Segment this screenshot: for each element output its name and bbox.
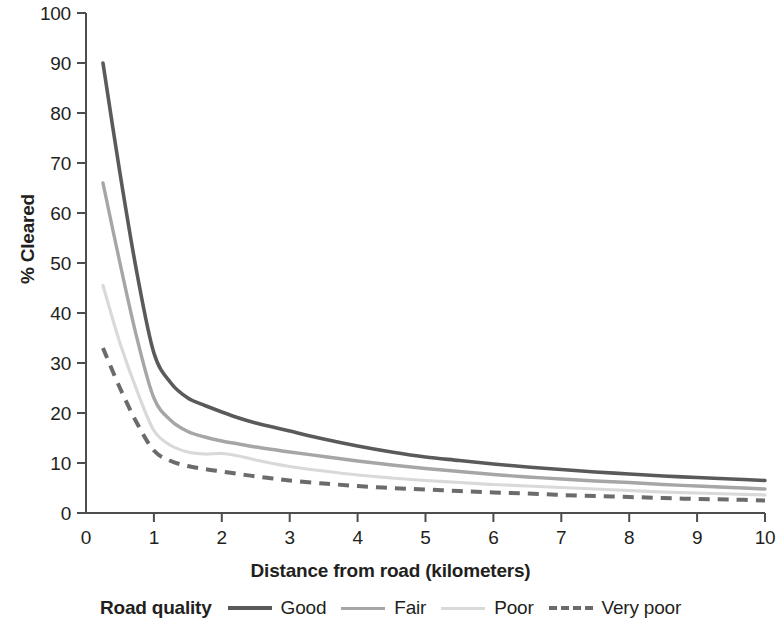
legend-title: Road quality bbox=[100, 597, 212, 619]
y-tick-label: 80 bbox=[50, 103, 71, 124]
x-axis-ticks: 012345678910 bbox=[81, 513, 776, 548]
y-axis-ticks: 0102030405060708090100 bbox=[40, 3, 86, 524]
y-tick-label: 0 bbox=[61, 503, 71, 524]
axes bbox=[86, 13, 765, 513]
x-tick-label: 6 bbox=[488, 527, 498, 548]
series-line-fair bbox=[103, 183, 765, 489]
y-tick-label: 70 bbox=[50, 153, 71, 174]
legend-item-label: Poor bbox=[494, 597, 533, 619]
legend-item-good[interactable]: Good bbox=[228, 597, 327, 619]
x-tick-label: 0 bbox=[81, 527, 91, 548]
x-tick-label: 1 bbox=[149, 527, 159, 548]
legend-item-very-poor[interactable]: Very poor bbox=[549, 597, 682, 619]
legend-item-label: Very poor bbox=[602, 597, 682, 619]
legend-line-swatch bbox=[341, 607, 385, 610]
x-tick-label: 10 bbox=[755, 527, 776, 548]
legend-item-fair[interactable]: Fair bbox=[341, 597, 426, 619]
series-line-poor bbox=[103, 286, 765, 496]
y-tick-label: 90 bbox=[50, 53, 71, 74]
series-line-good bbox=[103, 63, 765, 481]
legend-line-swatch bbox=[441, 607, 485, 610]
data-series-group bbox=[103, 63, 765, 501]
legend-line-swatch bbox=[228, 606, 272, 610]
x-tick-label: 9 bbox=[692, 527, 702, 548]
y-tick-label: 60 bbox=[50, 203, 71, 224]
x-tick-label: 3 bbox=[285, 527, 295, 548]
x-tick-label: 8 bbox=[624, 527, 634, 548]
y-tick-label: 20 bbox=[50, 403, 71, 424]
x-tick-label: 5 bbox=[420, 527, 430, 548]
y-tick-label: 40 bbox=[50, 303, 71, 324]
x-tick-label: 2 bbox=[217, 527, 227, 548]
y-axis-title: % Cleared bbox=[17, 159, 39, 319]
y-tick-label: 100 bbox=[40, 3, 71, 24]
line-chart-plot: 0102030405060708090100 012345678910 bbox=[0, 0, 781, 630]
x-tick-label: 4 bbox=[352, 527, 363, 548]
legend-line-swatch bbox=[549, 606, 593, 610]
chart-figure: 0102030405060708090100 012345678910 % Cl… bbox=[0, 0, 781, 630]
y-tick-label: 50 bbox=[50, 253, 71, 274]
legend-item-label: Fair bbox=[394, 597, 426, 619]
legend-item-label: Good bbox=[281, 597, 327, 619]
y-tick-label: 10 bbox=[50, 453, 71, 474]
x-axis-title: Distance from road (kilometers) bbox=[0, 560, 781, 582]
y-tick-label: 30 bbox=[50, 353, 71, 374]
legend-item-poor[interactable]: Poor bbox=[441, 597, 533, 619]
chart-legend: Road quality GoodFairPoorVery poor bbox=[0, 597, 781, 619]
x-tick-label: 7 bbox=[556, 527, 566, 548]
